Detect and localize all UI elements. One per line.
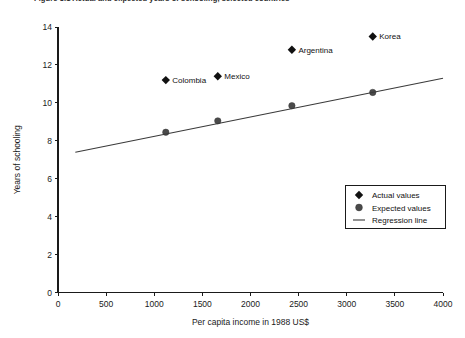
y-tick-label: 2 [47,250,52,260]
y-tick-label: 8 [47,136,52,146]
y-tick-label: 6 [47,174,52,184]
scatter-plot: 02468101214Years of schooling 0500100015… [0,0,465,338]
y-tick-label: 10 [43,98,53,108]
actual-value-point [162,76,170,84]
x-tick-label: 1000 [145,299,164,309]
chart-legend: Actual valuesExpected valuesRegression l… [345,185,445,228]
y-tick-label: 14 [43,22,53,32]
data-series-layer: ColombiaMexicoArgentinaKorea [75,32,443,152]
x-tick-label: 500 [99,299,113,309]
y-tick-label: 4 [47,212,52,222]
point-label: Korea [379,32,401,41]
actual-value-point [214,72,222,80]
y-tick-label: 12 [43,60,53,70]
chart-figure: Figure 3.1 Actual and expected years of … [0,0,465,338]
x-tick-label: 4000 [434,299,453,309]
y-axis-title: Years of schooling [12,125,22,194]
actual-value-point [288,46,296,54]
point-label: Colombia [172,76,206,85]
regression-line [75,78,443,152]
x-axis: 05001000150020002500300035004000Per capi… [56,293,453,327]
point-label: Mexico [224,72,250,81]
legend-entry-label: Expected values [372,204,431,213]
legend-entry-label: Actual values [372,191,420,200]
x-tick-label: 1500 [193,299,212,309]
y-axis: 02468101214Years of schooling [12,22,58,298]
x-tick-label: 3000 [337,299,356,309]
x-tick-label: 2500 [289,299,308,309]
x-tick-label: 3500 [385,299,404,309]
x-axis-title: Per capita income in 1988 US$ [192,317,309,327]
point-label: Argentina [298,46,333,55]
actual-value-point [369,32,377,40]
legend-entry-label: Regression line [372,216,428,225]
x-tick-label: 2000 [241,299,260,309]
y-tick-label: 0 [47,288,52,298]
legend-circle-icon [356,204,363,211]
x-tick-label: 0 [56,299,61,309]
